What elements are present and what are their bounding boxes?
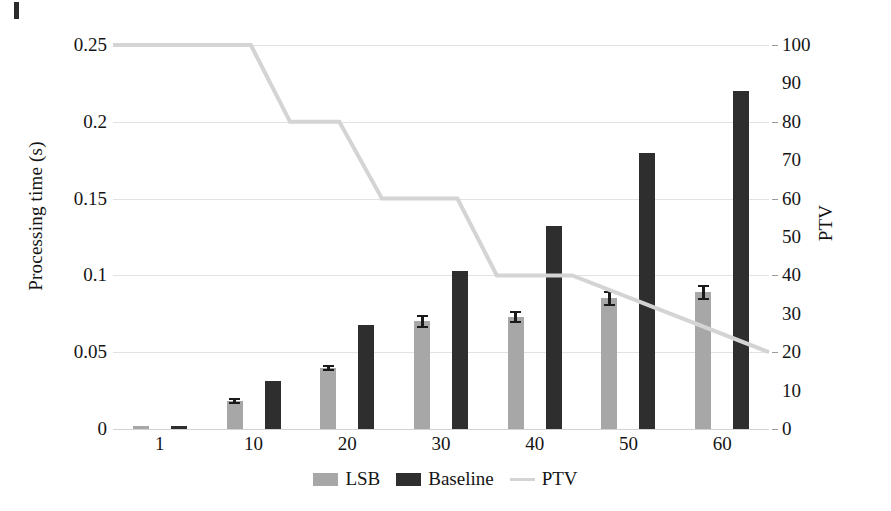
y-axis-right-tickmark	[772, 199, 778, 200]
error-bar-cap-top	[698, 285, 709, 287]
chart-figure: Processing time (s) PTV 00.050.10.150.20…	[0, 0, 891, 511]
x-axis-tick-label: 1	[155, 433, 165, 455]
error-bar	[421, 315, 424, 327]
error-bar-cap-top	[323, 365, 334, 367]
y-axis-right-tick-label: 20	[782, 341, 801, 363]
y-axis-right-tick-label: 30	[782, 303, 801, 325]
y-axis-left-tick-label: 0	[98, 418, 108, 440]
x-axis-tick-label: 40	[525, 433, 544, 455]
bar-baseline	[546, 226, 562, 429]
y-axis-right-tickmark	[772, 275, 778, 276]
y-axis-left-tick-label: 0.15	[74, 188, 107, 210]
y-axis-left-tick-label: 0.1	[83, 264, 107, 286]
bar-lsb	[695, 292, 711, 429]
bar-lsb	[414, 321, 430, 429]
y-axis-right-tick-label: 60	[782, 188, 801, 210]
y-axis-left-tick-label: 0.25	[74, 34, 107, 56]
x-axis-ticks: 1102030405060	[113, 429, 769, 463]
gridline	[113, 275, 769, 276]
bar-baseline	[639, 153, 655, 429]
plot-area	[113, 45, 769, 429]
legend-swatch-ptv	[510, 478, 535, 481]
x-axis-tick-label: 20	[338, 433, 357, 455]
error-bar	[327, 365, 330, 371]
legend-item[interactable]: PTV	[510, 468, 578, 490]
error-bar-cap-bottom	[604, 304, 615, 306]
y-axis-right-tick-label: 10	[782, 380, 801, 402]
bar-lsb	[601, 298, 617, 429]
chart-legend: LSBBaselinePTV	[0, 468, 891, 490]
legend-swatch-lsb	[313, 473, 338, 486]
error-bar-cap-top	[604, 291, 615, 293]
gridline	[113, 45, 769, 46]
y-axis-right-tickmark	[772, 45, 778, 46]
error-bar-cap-top	[510, 311, 521, 313]
error-bar	[514, 311, 517, 323]
error-bar	[608, 291, 611, 306]
x-axis-tick-label: 60	[713, 433, 732, 455]
bar-baseline	[265, 381, 281, 429]
y-axis-right-tick-label: 80	[782, 111, 801, 133]
y-axis-right-tick-label: 50	[782, 226, 801, 248]
gridline	[113, 199, 769, 200]
y-axis-right-tick-label: 90	[782, 72, 801, 94]
y-axis-left-title: Processing time (s)	[25, 116, 47, 316]
y-axis-left-ticks: 00.050.10.150.20.25	[45, 45, 107, 429]
y-axis-right-tickmark	[772, 429, 778, 430]
error-bar-cap-bottom	[510, 321, 521, 323]
gridline	[113, 352, 769, 353]
gridline	[113, 122, 769, 123]
y-axis-left-tick-label: 0.05	[74, 341, 107, 363]
error-bar-cap-bottom	[229, 402, 240, 404]
error-bar-cap-bottom	[417, 326, 428, 328]
x-axis-tick-label: 10	[244, 433, 263, 455]
error-bar-cap-top	[417, 315, 428, 317]
error-bar	[233, 398, 236, 404]
legend-item[interactable]: LSB	[313, 468, 380, 490]
error-bar	[702, 285, 705, 300]
x-axis-tick-label: 50	[619, 433, 638, 455]
ptv-step-line	[113, 45, 769, 429]
y-axis-right-tickmark	[772, 122, 778, 123]
legend-label: Baseline	[428, 468, 493, 490]
bar-baseline	[452, 271, 468, 429]
y-axis-right-tick-label: 0	[782, 418, 792, 440]
legend-label: PTV	[542, 468, 578, 490]
legend-swatch-baseline	[396, 473, 421, 486]
page-edge-artifact	[14, 2, 19, 19]
y-axis-right-tick-label: 70	[782, 149, 801, 171]
y-axis-right-tick-label: 100	[782, 34, 811, 56]
bar-lsb	[227, 401, 243, 429]
error-bar-cap-top	[229, 398, 240, 400]
error-bar-cap-bottom	[323, 369, 334, 371]
bar-lsb	[320, 368, 336, 429]
y-axis-right-tick-label: 40	[782, 264, 801, 286]
bar-lsb	[508, 317, 524, 429]
x-axis-tick-label: 30	[432, 433, 451, 455]
y-axis-right-ticks: 0102030405060708090100	[782, 45, 842, 429]
legend-label: LSB	[345, 468, 380, 490]
bar-baseline	[358, 325, 374, 429]
y-axis-left-tick-label: 0.2	[83, 111, 107, 133]
error-bar-cap-bottom	[698, 298, 709, 300]
legend-item[interactable]: Baseline	[396, 468, 493, 490]
y-axis-right-tickmark	[772, 352, 778, 353]
bar-baseline	[733, 91, 749, 429]
